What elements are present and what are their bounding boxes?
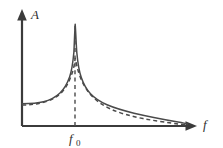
- resonance-curve-figure: A f f 0: [0, 0, 223, 148]
- high-damping-resonance-curve: [22, 58, 187, 125]
- y-axis-label: A: [30, 7, 39, 22]
- y-axis-arrowhead: [17, 9, 27, 21]
- resonance-plot-svg: A f f 0: [0, 0, 223, 148]
- x-tick-label-f0-subscript: 0: [76, 138, 81, 148]
- x-tick-label-f0-base: f: [69, 131, 75, 146]
- low-damping-resonance-curve: [22, 24, 188, 124]
- x-axis-label: f: [203, 117, 209, 132]
- x-axis-arrowhead: [186, 121, 198, 131]
